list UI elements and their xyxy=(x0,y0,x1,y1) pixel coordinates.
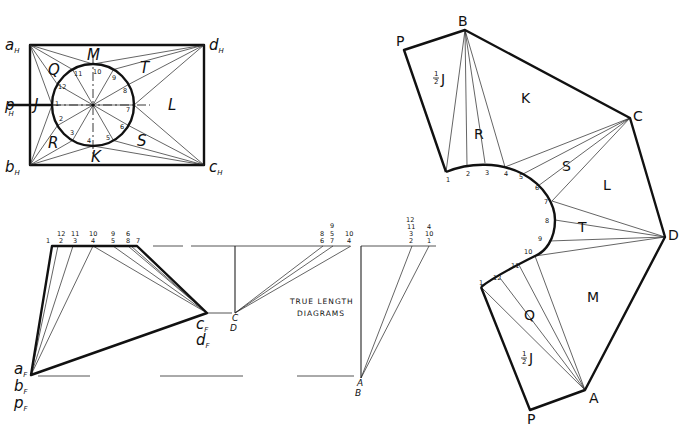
dev-half-J-bottom: 1 2 J xyxy=(521,350,533,366)
svg-text:9: 9 xyxy=(112,74,116,82)
dev-label-C: C xyxy=(633,108,643,124)
svg-text:2: 2 xyxy=(466,170,470,178)
svg-text:10: 10 xyxy=(524,248,532,256)
svg-text:4: 4 xyxy=(91,237,95,245)
true-length-caption-1: TRUE LENGTH xyxy=(289,297,354,306)
ab-numbers: 12 11 3 2 4 10 1 xyxy=(406,216,433,245)
circle-center-dot xyxy=(91,103,94,106)
sheet-metal-development-drawing: aH dH pH bH cH M Q T J L R S K 1 2 3 4 5… xyxy=(0,0,691,434)
region-L: L xyxy=(168,96,176,114)
dev-label-P-top: P xyxy=(396,33,404,49)
svg-text:2: 2 xyxy=(59,237,63,245)
dev-label-A: A xyxy=(589,390,599,406)
region-Q: Q xyxy=(48,61,60,79)
svg-text:8: 8 xyxy=(545,217,549,225)
label-a-h: aH xyxy=(5,36,20,55)
svg-text:6: 6 xyxy=(535,184,539,192)
svg-text:11: 11 xyxy=(74,70,82,78)
cd-numbers: 8 6 9 5 7 10 4 xyxy=(320,222,353,245)
svg-text:1: 1 xyxy=(434,70,438,78)
svg-text:5: 5 xyxy=(519,173,523,181)
svg-text:6: 6 xyxy=(320,237,324,245)
region-K: K xyxy=(91,148,102,166)
label-p-f: pF xyxy=(13,394,29,413)
dev-region-T: T xyxy=(577,219,587,235)
dev-region-K: K xyxy=(521,90,531,106)
ab-true-lengths xyxy=(361,246,429,378)
svg-text:3: 3 xyxy=(73,237,77,245)
svg-text:1: 1 xyxy=(427,237,431,245)
label-D: D xyxy=(230,323,237,333)
dev-outer-outline xyxy=(404,30,665,410)
svg-text:1: 1 xyxy=(55,100,59,108)
label-d-f: dF xyxy=(196,331,211,350)
svg-text:5: 5 xyxy=(111,237,115,245)
region-T: T xyxy=(140,59,151,77)
dev-region-Q: Q xyxy=(524,307,535,323)
label-b-h: bH xyxy=(5,158,21,177)
dev-half-J-top: 1 2 J xyxy=(433,70,445,87)
plan-view: aH dH pH bH cH M Q T J L R S K 1 2 3 4 5… xyxy=(4,36,225,177)
svg-text:7: 7 xyxy=(330,237,334,245)
region-R: R xyxy=(48,134,58,152)
svg-text:9: 9 xyxy=(330,222,334,230)
svg-text:4: 4 xyxy=(347,237,351,245)
svg-text:J: J xyxy=(528,350,533,366)
label-d-h: dH xyxy=(209,36,225,55)
front-outline xyxy=(31,246,207,375)
dev-label-B: B xyxy=(458,13,468,29)
svg-text:1: 1 xyxy=(479,279,483,287)
svg-text:12: 12 xyxy=(58,83,66,91)
label-p-h: pH xyxy=(4,96,15,118)
dev-region-R: R xyxy=(474,126,484,142)
front-fan-c xyxy=(93,246,207,313)
svg-text:1: 1 xyxy=(522,350,526,358)
svg-text:1: 1 xyxy=(446,176,450,184)
svg-text:6: 6 xyxy=(120,123,124,131)
label-C: C xyxy=(232,313,239,323)
svg-text:7: 7 xyxy=(544,198,548,206)
front-view: 1 12 11 10 9 6 7 2 3 4 5 8 cF dF aF bF p… xyxy=(13,230,232,413)
development-pattern: P B C D A P 1 2 J K R S L T M Q 1 2 J 1 … xyxy=(396,13,679,427)
svg-text:12: 12 xyxy=(493,274,501,282)
svg-text:2: 2 xyxy=(522,358,526,366)
svg-text:2: 2 xyxy=(59,115,63,123)
label-B: B xyxy=(355,388,361,398)
svg-text:J: J xyxy=(440,71,445,87)
svg-text:1: 1 xyxy=(46,237,50,245)
dev-label-P-bottom: P xyxy=(527,411,535,427)
dev-fan-B xyxy=(446,30,505,172)
svg-text:8: 8 xyxy=(123,87,127,95)
label-A: A xyxy=(356,378,363,388)
label-c-h: cH xyxy=(209,158,223,177)
svg-text:7: 7 xyxy=(126,106,130,114)
svg-text:9: 9 xyxy=(538,235,542,243)
svg-text:10: 10 xyxy=(93,68,101,76)
svg-text:2: 2 xyxy=(434,78,438,86)
svg-text:11: 11 xyxy=(511,262,519,270)
svg-text:4: 4 xyxy=(87,137,91,145)
svg-text:8: 8 xyxy=(126,237,130,245)
dev-curve-numbers: 1 2 3 4 5 6 7 8 9 10 11 12 1 xyxy=(446,169,549,287)
svg-text:3: 3 xyxy=(485,169,489,177)
dev-region-S: S xyxy=(562,158,571,174)
region-S: S xyxy=(137,132,147,150)
svg-text:5: 5 xyxy=(106,134,110,142)
svg-text:2: 2 xyxy=(409,237,413,245)
dev-region-L: L xyxy=(603,177,611,193)
dev-region-M: M xyxy=(587,289,599,305)
front-top-numbers: 1 12 11 10 9 6 7 2 3 4 5 8 xyxy=(46,230,140,245)
svg-text:4: 4 xyxy=(504,170,508,178)
svg-text:3: 3 xyxy=(70,129,74,137)
dev-label-D: D xyxy=(668,227,679,243)
svg-text:7: 7 xyxy=(136,237,140,245)
true-length-caption-2: DIAGRAMS xyxy=(297,309,345,318)
region-M: M xyxy=(87,46,100,64)
